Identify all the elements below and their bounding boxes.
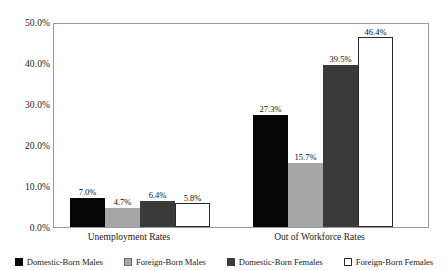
legend-item-foreign-born-males: Foreign-Born Males xyxy=(124,257,206,267)
legend-swatch-icon xyxy=(15,258,23,266)
bar-value: 27.3% xyxy=(260,104,282,114)
plot-area: 7.0% 4.7% 6.4% 5.8% 27.3% 15.7% 39.5% xyxy=(53,23,429,228)
bar-chart: 50.0% 40.0% 30.0% 20.0% 10.0% 0.0% 7.0% … xyxy=(0,0,448,271)
bar-value: 5.8% xyxy=(184,193,202,203)
bar-value: 46.4% xyxy=(365,27,387,37)
bar-out-of-workforce-domestic-born-females: 39.5% xyxy=(323,65,358,227)
x-category-unemployment-rates: Unemployment Rates xyxy=(69,231,189,243)
y-tick-0: 0.0% xyxy=(0,223,50,233)
legend-swatch-icon xyxy=(227,258,235,266)
y-tick-10: 10.0% xyxy=(0,182,50,192)
legend-label: Foreign-Born Males xyxy=(136,257,206,267)
y-tick-40: 40.0% xyxy=(0,59,50,69)
bar-out-of-workforce-foreign-born-females: 46.4% xyxy=(358,37,393,227)
legend-item-foreign-born-females: Foreign-Born Females xyxy=(344,257,434,267)
legend-swatch-icon xyxy=(124,258,132,266)
bar-unemployment-domestic-born-males: 7.0% xyxy=(70,198,105,227)
legend-label: Foreign-Born Females xyxy=(356,257,434,267)
legend-item-domestic-born-males: Domestic-Born Males xyxy=(15,257,103,267)
x-category-out-of-workforce-rates: Out of Workforce Rates xyxy=(252,231,387,243)
y-tick-50: 50.0% xyxy=(0,18,50,28)
bar-value: 15.7% xyxy=(295,152,317,162)
bar-value: 6.4% xyxy=(149,190,167,200)
bar-value: 39.5% xyxy=(330,54,352,64)
legend: Domestic-Born Males Foreign-Born Males D… xyxy=(0,254,448,270)
y-tick-30: 30.0% xyxy=(0,100,50,110)
y-axis: 50.0% 40.0% 30.0% 20.0% 10.0% 0.0% xyxy=(0,0,50,240)
bar-unemployment-foreign-born-males: 4.7% xyxy=(105,208,140,227)
legend-label: Domestic-Born Females xyxy=(239,257,323,267)
y-tick-20: 20.0% xyxy=(0,141,50,151)
bar-out-of-workforce-domestic-born-males: 27.3% xyxy=(253,115,288,227)
bar-value: 4.7% xyxy=(114,197,132,207)
bar-unemployment-domestic-born-females: 6.4% xyxy=(140,201,175,227)
plot-inner: 7.0% 4.7% 6.4% 5.8% 27.3% 15.7% 39.5% xyxy=(54,24,428,227)
bar-out-of-workforce-foreign-born-males: 15.7% xyxy=(288,163,323,227)
bar-unemployment-foreign-born-females: 5.8% xyxy=(175,203,210,227)
legend-item-domestic-born-females: Domestic-Born Females xyxy=(227,257,323,267)
legend-label: Domestic-Born Males xyxy=(27,257,103,267)
bar-value: 7.0% xyxy=(79,187,97,197)
legend-swatch-icon xyxy=(344,258,352,266)
